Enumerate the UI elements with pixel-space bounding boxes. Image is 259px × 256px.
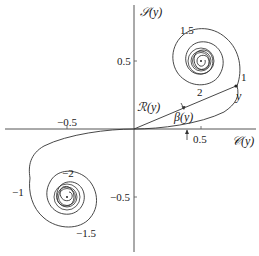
x-tick-label-pos-half: 0.5 — [193, 133, 207, 145]
upper-limit-dot — [200, 60, 202, 62]
cornu-spiral-figure: 𝒮(y) 𝒞(y) −0.5 0.5 0.5 −0.5 1 1.5 2 −1 −… — [0, 0, 259, 256]
point-y-marker — [234, 84, 237, 87]
beta-arrowhead-bottom — [185, 130, 189, 135]
param-label-neg-1-5: −1.5 — [76, 227, 96, 239]
y-tick-label-pos-half: 0.5 — [117, 55, 131, 67]
point-label: y — [235, 89, 242, 103]
param-label-1: 1 — [241, 71, 247, 83]
param-label-1-5: 1.5 — [180, 24, 194, 36]
angle-label: β(y) — [173, 110, 193, 124]
param-label-neg-2: −2 — [62, 167, 74, 179]
x-axis-label: 𝒞(y) — [232, 134, 254, 148]
spiral-curve-lower — [29, 129, 134, 227]
y-axis-label: 𝒮(y) — [140, 5, 162, 19]
y-tick-label-neg-half: −0.5 — [110, 191, 130, 203]
x-tick-label-neg-half: −0.5 — [57, 116, 77, 128]
param-label-2: 2 — [197, 86, 203, 98]
radius-label: ℛ(y) — [137, 100, 160, 114]
lower-limit-dot — [66, 196, 68, 198]
param-label-neg-1: −1 — [12, 186, 24, 198]
